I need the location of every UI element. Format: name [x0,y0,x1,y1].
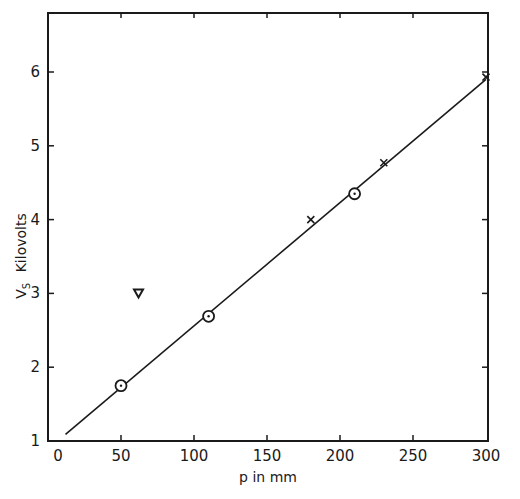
circle-marker [203,311,214,322]
x-tick-label: 0 [53,447,63,465]
fit-line [66,79,486,434]
y-tick-label: 1 [30,432,40,450]
x-tick-label: 250 [399,447,428,465]
y-axis-label-unit: Kilovolts [13,213,29,272]
cross-marker [307,216,314,223]
axis-ticks [48,13,488,441]
svg-text:VS Kilovolts: VS Kilovolts [13,213,32,298]
y-tick-labels: 123456 [30,63,40,450]
plot-frame [48,13,488,441]
x-tick-label: 200 [326,447,355,465]
fit-line-path [66,79,486,434]
circle-marker-dot [353,193,355,195]
x-tick-label: 150 [253,447,282,465]
y-tick-label: 4 [30,211,40,229]
plot-border [48,13,488,441]
data-points [116,74,490,391]
circle-marker-dot [207,315,209,317]
circle-marker [116,380,127,391]
circle-marker [349,188,360,199]
triangle-marker [134,289,143,297]
y-axis-label-main: V [13,289,29,299]
y-axis-label: VS Kilovolts [13,213,32,298]
x-tick-label: 50 [111,447,130,465]
y-tick-label: 6 [30,63,40,81]
y-tick-label: 5 [30,137,40,155]
x-tick-labels: 050100150200250300 [53,447,500,465]
y-tick-label: 2 [30,358,40,376]
x-tick-label: 100 [180,447,209,465]
chart: 050100150200250300 123456 p in mm VS Kil… [0,0,520,499]
x-tick-label: 300 [472,447,501,465]
x-axis-label: p in mm [239,469,297,485]
circle-marker-dot [120,384,122,386]
